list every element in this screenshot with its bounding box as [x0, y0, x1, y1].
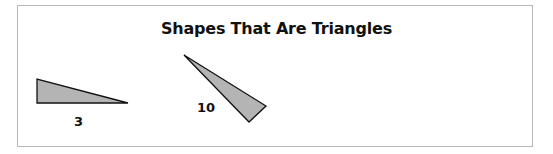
triangle-2-label: 10 [197, 100, 215, 115]
triangle-shape-1 [37, 79, 128, 103]
triangle-1-label: 3 [74, 114, 83, 129]
shapes-canvas [0, 0, 553, 154]
